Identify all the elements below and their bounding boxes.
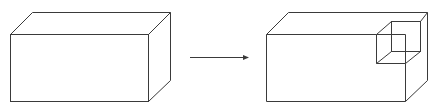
transform-arrow — [190, 55, 249, 60]
cube-edge-tl — [377, 22, 392, 35]
left-box — [11, 13, 171, 102]
right-box — [267, 13, 428, 102]
cube-edge-tr — [421, 13, 428, 22]
cube-edge-bl — [377, 52, 392, 64]
right-box-front-face — [267, 35, 406, 102]
right-box-top-face — [267, 13, 428, 35]
diagram-canvas — [0, 0, 436, 111]
cutout-cube — [377, 13, 428, 64]
left-box-top-face — [11, 13, 171, 35]
left-box-front-face — [11, 35, 149, 102]
cube-edge-br — [406, 52, 421, 64]
arrow-head-icon — [243, 55, 249, 60]
right-box-side-face — [406, 13, 428, 102]
left-box-side-face — [149, 13, 171, 102]
